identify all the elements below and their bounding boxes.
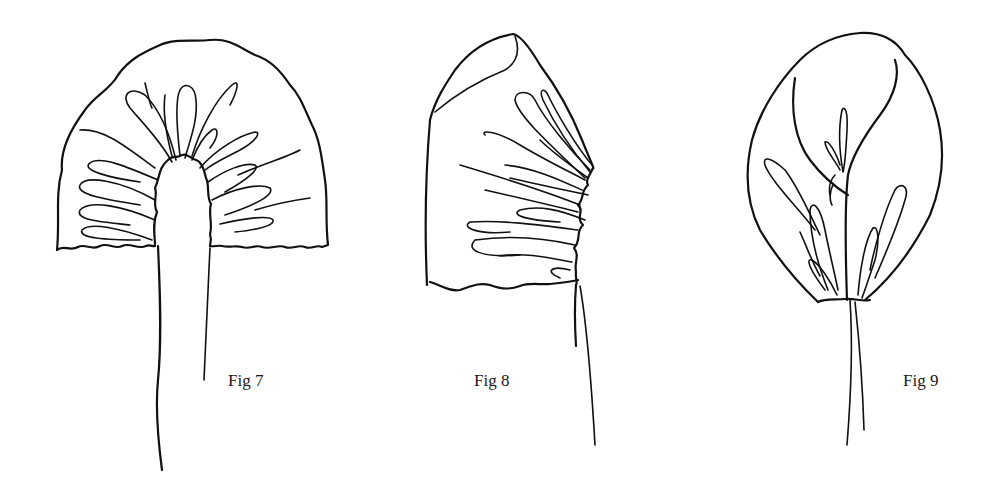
fig9-base (818, 299, 870, 302)
fig8-inner-fold (435, 36, 518, 112)
fig9-gill-loops (764, 108, 906, 298)
fig7-stem-right (204, 248, 210, 380)
illustration-canvas: Fig 7 Fig 8 Fig 9 (0, 0, 985, 483)
fig8-gathered-edge (574, 168, 593, 285)
fig8-drawing (426, 34, 595, 445)
fig7-cap-bottom-left (57, 245, 155, 250)
fig8-label: Fig 8 (474, 371, 509, 391)
fig7-drawing (57, 40, 328, 470)
fig8-stem-left (575, 285, 576, 346)
fig7-gill-loops (79, 83, 310, 240)
fig7-stem-top (154, 155, 211, 246)
fig-drawings (0, 0, 985, 483)
fig7-stem (157, 246, 162, 470)
fig9-label: Fig 9 (903, 371, 938, 391)
fig8-stem-right (580, 286, 595, 445)
fig9-stem (847, 300, 852, 445)
fig8-cap-outline (426, 34, 594, 285)
fig7-label: Fig 7 (228, 371, 263, 391)
fig9-stem-right (855, 302, 864, 430)
fig8-cap-bottom (430, 280, 578, 290)
fig7-cap-outline (57, 40, 328, 250)
